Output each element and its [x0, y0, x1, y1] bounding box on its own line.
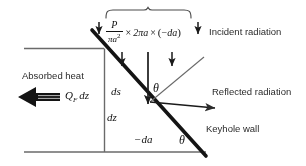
theta-lower-label: θ: [179, 134, 185, 146]
area-term: 2πa: [133, 27, 148, 38]
theta-upper-label: θ: [153, 82, 159, 94]
multiply-sign-1: ×: [126, 27, 132, 38]
da-term: da: [167, 27, 177, 38]
fraction-denominator: πa2: [106, 33, 123, 44]
power-fraction: P πa2: [106, 20, 123, 44]
keyhole-wall-label: Keyhole wall: [206, 124, 259, 134]
absorbed-heat-expression: QFdz: [65, 90, 89, 104]
qf-dz: dz: [79, 89, 89, 101]
absorbed-heat-arrow: [18, 87, 60, 107]
incident-radiation-label: Incident radiation: [209, 27, 281, 37]
absorbed-heat-label: Absorbed heat: [22, 71, 84, 81]
multiply-sign-2: ×: [150, 27, 156, 38]
formula-brace: [106, 7, 191, 18]
incident-power-formula: P πa2 × 2πa × ( − da ): [106, 20, 181, 44]
surface-normal-ray: [150, 57, 204, 102]
close-paren: ): [177, 26, 181, 38]
qf-symbol: Q: [65, 89, 73, 101]
dz-label: dz: [107, 112, 117, 123]
ds-label: ds: [111, 86, 121, 97]
fraction-numerator: P: [108, 20, 120, 30]
minus-da-label: −da: [134, 134, 152, 145]
qf-subscript: F: [73, 96, 77, 104]
figure-canvas: P πa2 × 2πa × ( − da ) Incident radiatio…: [0, 0, 306, 166]
reflected-radiation-label: Reflected radiation: [212, 87, 291, 97]
